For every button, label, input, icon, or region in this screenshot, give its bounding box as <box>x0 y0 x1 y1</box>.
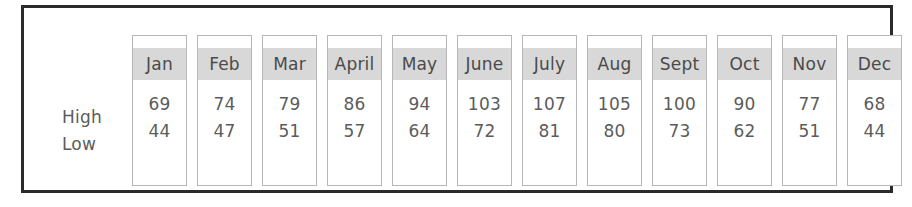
month-header: Sept <box>653 48 706 80</box>
cell-high: 103 <box>458 91 511 118</box>
month-column-dec: Dec 68 44 <box>847 35 902 186</box>
month-header: April <box>328 48 381 80</box>
cell-low: 80 <box>588 118 641 145</box>
cell-low: 44 <box>848 118 901 145</box>
cell-high: 86 <box>328 91 381 118</box>
month-column-nov: Nov 77 51 <box>782 35 837 186</box>
month-values: 74 47 <box>198 91 251 145</box>
cell-low: 51 <box>783 118 836 145</box>
month-columns: Jan 69 44 Feb 74 47 Mar 79 51 <box>132 35 902 186</box>
month-column-june: June 103 72 <box>457 35 512 186</box>
cell-high: 74 <box>198 91 251 118</box>
cell-low: 51 <box>263 118 316 145</box>
cell-low: 73 <box>653 118 706 145</box>
month-column-july: July 107 81 <box>522 35 577 186</box>
month-values: 105 80 <box>588 91 641 145</box>
month-values: 94 64 <box>393 91 446 145</box>
month-header: Feb <box>198 48 251 80</box>
month-values: 100 73 <box>653 91 706 145</box>
month-header: Nov <box>783 48 836 80</box>
row-label-group: High Low <box>62 104 124 158</box>
month-values: 86 57 <box>328 91 381 145</box>
month-header: Dec <box>848 48 901 80</box>
month-values: 79 51 <box>263 91 316 145</box>
row-label-high: High <box>62 104 124 131</box>
month-header: June <box>458 48 511 80</box>
month-header: July <box>523 48 576 80</box>
cell-high: 90 <box>718 91 771 118</box>
cell-low: 47 <box>198 118 251 145</box>
month-column-jan: Jan 69 44 <box>132 35 187 186</box>
month-column-april: April 86 57 <box>327 35 382 186</box>
month-column-mar: Mar 79 51 <box>262 35 317 186</box>
cell-low: 44 <box>133 118 186 145</box>
table-frame: High Low Jan 69 44 Feb 74 47 Mar <box>21 5 893 193</box>
cell-low: 64 <box>393 118 446 145</box>
cell-high: 69 <box>133 91 186 118</box>
cell-low: 81 <box>523 118 576 145</box>
cell-high: 107 <box>523 91 576 118</box>
cell-high: 68 <box>848 91 901 118</box>
cell-high: 105 <box>588 91 641 118</box>
month-column-may: May 94 64 <box>392 35 447 186</box>
month-values: 68 44 <box>848 91 901 145</box>
month-values: 107 81 <box>523 91 576 145</box>
cell-low: 62 <box>718 118 771 145</box>
cell-low: 72 <box>458 118 511 145</box>
month-column-aug: Aug 105 80 <box>587 35 642 186</box>
month-values: 103 72 <box>458 91 511 145</box>
cell-high: 79 <box>263 91 316 118</box>
month-header: Aug <box>588 48 641 80</box>
cell-low: 57 <box>328 118 381 145</box>
month-values: 90 62 <box>718 91 771 145</box>
month-values: 77 51 <box>783 91 836 145</box>
month-column-sept: Sept 100 73 <box>652 35 707 186</box>
row-label-low: Low <box>62 131 124 158</box>
screenshot-root: High Low Jan 69 44 Feb 74 47 Mar <box>0 0 912 207</box>
month-header: Jan <box>133 48 186 80</box>
month-column-oct: Oct 90 62 <box>717 35 772 186</box>
month-header: Oct <box>718 48 771 80</box>
cell-high: 94 <box>393 91 446 118</box>
month-header: May <box>393 48 446 80</box>
month-column-feb: Feb 74 47 <box>197 35 252 186</box>
month-values: 69 44 <box>133 91 186 145</box>
month-header: Mar <box>263 48 316 80</box>
cell-high: 77 <box>783 91 836 118</box>
cell-high: 100 <box>653 91 706 118</box>
